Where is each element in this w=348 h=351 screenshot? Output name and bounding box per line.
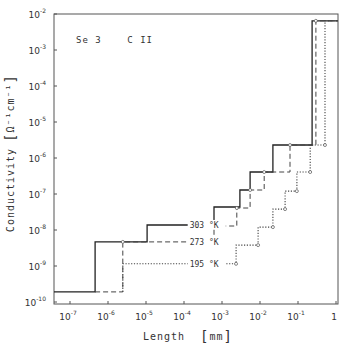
step-marker [121,240,124,243]
step-marker [309,171,312,174]
x-tick-label: 10-1 [287,309,305,322]
x-tick-label: 10-5 [135,309,153,322]
y-tick-label: 10-5 [29,115,47,128]
x-tick-label: 10-2 [249,309,267,322]
y-axis-title: Conductivity [Ω⁻¹cm⁻¹] [2,74,18,232]
x-axis-title: Length [mm] [143,328,233,344]
y-axis-label: Conductivity [5,148,16,232]
y-tick-label: 10-7 [29,187,47,200]
sample-annotation: Se 3 C II [76,35,153,45]
series-label: 303 °K [190,221,219,230]
x-axis-unit: [mm] [200,328,233,344]
series-dashed [95,21,338,292]
y-tick-label: 10-10 [25,295,46,308]
step-marker [263,171,266,174]
x-tick-label: 10-4 [173,309,191,322]
y-axis-unit-text: Ω⁻¹cm⁻¹ [5,83,16,132]
y-tick-label: 10-8 [29,223,47,236]
series-labels: 303 °K273 °K195 °K [188,220,226,269]
step-marker [323,144,326,147]
y-tick-label: 10-4 [29,79,47,92]
step-marker [284,208,287,211]
series-dotted [123,21,338,292]
x-tick-label: 10-7 [59,309,77,322]
y-axis-ticks: 10-210-310-410-510-610-710-810-910-10 [25,7,57,308]
x-tick-label: 10-3 [211,309,229,322]
data-series [54,19,338,292]
y-axis-unit: [Ω⁻¹cm⁻¹] [2,74,18,142]
series-solid [54,21,338,292]
y-tick-label: 10-3 [29,43,47,56]
y-tick-label: 10-9 [29,259,47,272]
step-marker [314,19,317,22]
y-tick-label: 10-2 [29,7,47,20]
x-axis-label: Length [143,331,185,342]
x-axis-unit-text: mm [209,331,223,342]
step-marker [249,189,252,192]
x-tick-label: 10-6 [97,309,115,322]
step-marker [257,244,260,247]
step-marker [271,226,274,229]
series-label: 195 °K [190,260,219,269]
step-marker [289,144,292,147]
conductivity-step-chart: 10-210-310-410-510-610-710-810-910-10 10… [0,0,348,351]
x-tick-label: 1 [331,312,337,322]
step-marker [235,262,238,265]
step-marker [295,190,298,193]
series-label: 273 °K [190,238,219,247]
step-marker [235,207,238,210]
y-tick-label: 10-6 [29,151,47,164]
